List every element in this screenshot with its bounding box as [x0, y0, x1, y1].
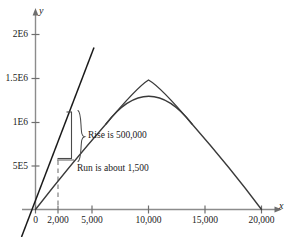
run-annotation-label: Run is about 1,500 [77, 164, 149, 174]
y-axis-name: y [39, 6, 43, 16]
y-axis-arrowhead [33, 8, 39, 16]
parabola-curve [36, 80, 262, 210]
x-tick-label-15000: 15,000 [185, 216, 226, 226]
axis-group [22, 8, 282, 214]
rise-annotation-label: Rise is 500,000 [88, 131, 147, 141]
y-tick-label-1p5e6: 1.5E6 [0, 74, 28, 84]
y-tick-label-5e5: 5E5 [0, 162, 28, 172]
x-axis-name: x [279, 201, 283, 211]
y-tick-label-2e6: 2E6 [0, 30, 28, 40]
plot-canvas [0, 0, 289, 237]
y-tick-label-1e6: 1E6 [0, 118, 28, 128]
chart-figure: 2E6 1.5E6 1E6 5E5 0 2,000 5,000 10,000 1… [0, 0, 289, 237]
x-tick-label-20000: 20,000 [241, 216, 282, 226]
x-tick-label-2000: 2,000 [41, 216, 75, 226]
parabola-vertex-arc [106, 96, 192, 124]
x-tick-label-10000: 10,000 [128, 216, 169, 226]
x-tick-label-5000: 5,000 [75, 216, 109, 226]
